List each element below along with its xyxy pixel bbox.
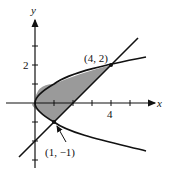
x-axis-label: x (156, 97, 162, 109)
point-label-1-neg1: (1, −1) (45, 146, 75, 159)
region-diagram: y x 2 4 (4, 2) (1, −1) (0, 0, 169, 171)
point-label-4-2: (4, 2) (84, 52, 108, 65)
y-axis-label: y (30, 4, 36, 16)
x-tick-label: 4 (107, 108, 113, 120)
point-4-2 (109, 63, 113, 67)
y-tick-label: 2 (23, 59, 29, 71)
point-1-neg1 (52, 120, 56, 124)
shaded-region (32, 65, 111, 122)
